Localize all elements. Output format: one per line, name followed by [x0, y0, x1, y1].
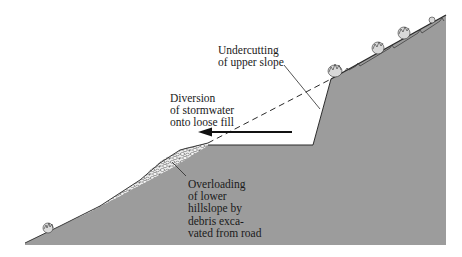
- label-line: of lower: [188, 190, 261, 202]
- label-undercutting: Undercutting of upper slope: [218, 44, 284, 68]
- label-line: Overloading: [188, 178, 261, 190]
- label-line: Diversion: [170, 92, 234, 104]
- label-line: hillslope by: [188, 202, 261, 214]
- label-line: vated from road: [188, 227, 261, 239]
- label-overloading: Overloading of lower hillslope by debris…: [188, 178, 261, 239]
- label-diversion: Diversion of stormwater onto loose fill: [170, 92, 234, 129]
- label-line: Undercutting: [218, 44, 284, 56]
- arrow-left-icon: [198, 128, 212, 137]
- label-line: of stormwater: [170, 104, 234, 116]
- label-line: of upper slope: [218, 56, 284, 68]
- label-line: onto loose fill: [170, 116, 234, 128]
- label-line: debris exca-: [188, 215, 261, 227]
